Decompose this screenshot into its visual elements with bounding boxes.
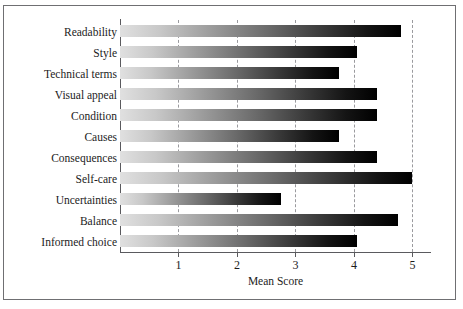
category-label: Technical terms xyxy=(5,68,117,80)
x-tick-label-3: 3 xyxy=(283,258,307,273)
bar xyxy=(120,88,377,100)
category-label: Causes xyxy=(5,131,117,143)
x-tick-label-2: 2 xyxy=(225,258,249,273)
x-tick-label-1: 1 xyxy=(166,258,190,273)
category-label: Informed choice xyxy=(5,236,117,248)
bar xyxy=(120,235,357,247)
bar xyxy=(120,214,398,226)
gridline-x-5 xyxy=(412,20,413,252)
x-tick-3 xyxy=(295,253,296,257)
category-label: Condition xyxy=(5,110,117,122)
x-tick-2 xyxy=(237,253,238,257)
plot-area xyxy=(120,20,430,252)
category-label: Visual appeal xyxy=(5,89,117,101)
x-tick-4 xyxy=(354,253,355,257)
category-label: Style xyxy=(5,47,117,59)
bar xyxy=(120,151,377,163)
x-tick-label-4: 4 xyxy=(342,258,366,273)
x-tick-1 xyxy=(178,253,179,257)
bar xyxy=(120,25,401,37)
bar xyxy=(120,67,339,79)
bar xyxy=(120,46,357,58)
category-label: Uncertainties xyxy=(5,194,117,206)
x-tick-5 xyxy=(412,253,413,257)
category-label: Balance xyxy=(5,215,117,227)
category-label: Consequences xyxy=(5,152,117,164)
category-axis-labels: ReadabilityStyleTechnical termsVisual ap… xyxy=(2,20,117,252)
category-label: Self-care xyxy=(5,173,117,185)
bar xyxy=(120,172,412,184)
bar xyxy=(120,130,339,142)
category-label: Readability xyxy=(5,26,117,38)
figure-canvas: ReadabilityStyleTechnical termsVisual ap… xyxy=(0,0,463,309)
x-axis-spine xyxy=(120,252,431,253)
x-tick-label-5: 5 xyxy=(400,258,424,273)
bar xyxy=(120,109,377,121)
bar xyxy=(120,193,281,205)
x-axis-title: Mean Score xyxy=(120,275,431,287)
